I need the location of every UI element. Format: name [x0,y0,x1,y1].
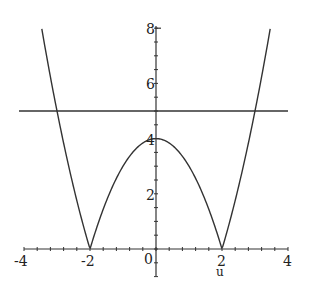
y-tick-label-2: 2 [146,187,155,203]
x-tick-label-neg4: -4 [14,253,28,269]
y-tick-label-6: 6 [146,76,155,92]
y-ticks [154,28,161,276]
x-axis-title: u [216,265,224,279]
x-tick-label-0: 0 [144,251,153,267]
plot-area: -4 -2 0 2 4 u 2 4 6 8 [0,0,311,299]
x-tick-label-4: 4 [283,253,292,269]
x-tick-label-neg2: -2 [81,253,95,269]
y-tick-label-4: 4 [146,132,155,148]
y-tick-label-8: 8 [146,21,155,37]
